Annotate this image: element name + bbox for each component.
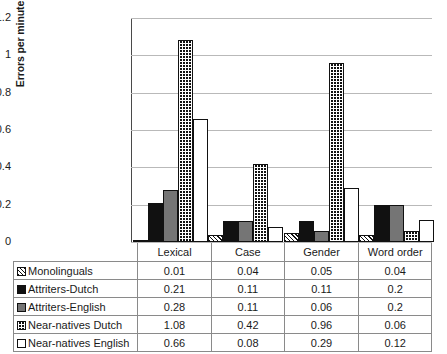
table-value-cell: 0.66 (137, 334, 211, 352)
table-value-cell: 0.06 (284, 298, 359, 316)
legend-label: Monolinguals (28, 265, 93, 277)
data-table: LexicalCaseGenderWord orderMonolinguals0… (13, 243, 432, 352)
table-row: Near-natives Dutch1.080.420.960.06 (14, 316, 432, 334)
y-axis-tick-label: 1 (5, 49, 11, 60)
checkerboard-icon (17, 321, 26, 330)
bar-cluster (208, 18, 283, 242)
legend-cell: Near-natives English (14, 334, 138, 352)
legend-cell: Monolinguals (14, 262, 138, 280)
bar-chart-figure: Errors per minute 1.210.80.60.40.20 Lexi… (0, 0, 447, 354)
x-axis-category-label: Lexical (137, 243, 211, 262)
table-value-cell: 0.12 (359, 334, 432, 352)
bar-monolinguals-gender[interactable] (284, 233, 299, 242)
legend-label: Near-natives English (28, 337, 130, 349)
bar-cluster (133, 18, 208, 242)
bar-near-natives-dutch-gender[interactable] (329, 63, 344, 242)
table-value-cell: 0.11 (212, 298, 285, 316)
bar-near-natives-english-word-order[interactable] (419, 220, 434, 242)
bar-near-natives-dutch-case[interactable] (253, 164, 268, 242)
y-axis-tick-label: 0.8 (0, 87, 11, 98)
y-axis-tick-label: 0.6 (0, 124, 11, 135)
bar-attriters-dutch-case[interactable] (223, 221, 238, 242)
bar-monolinguals-word-order[interactable] (359, 235, 374, 242)
table-row: Monolinguals0.010.040.050.04 (14, 262, 432, 280)
bar-attriters-english-word-order[interactable] (389, 205, 404, 242)
bar-near-natives-dutch-word-order[interactable] (404, 231, 419, 242)
bar-group-word-order (357, 18, 432, 242)
x-axis-category-label: Case (212, 243, 285, 262)
table-value-cell: 0.05 (284, 262, 359, 280)
table-value-cell: 0.96 (284, 316, 359, 334)
table-value-cell: 0.08 (212, 334, 285, 352)
table-value-cell: 0.04 (212, 262, 285, 280)
solid-black-icon (17, 285, 26, 294)
bar-attriters-dutch-lexical[interactable] (148, 203, 163, 242)
table-corner-cell (14, 243, 138, 262)
table-value-cell: 0.06 (359, 316, 432, 334)
bar-cluster (284, 18, 359, 242)
table-row: Near-natives English0.660.080.290.12 (14, 334, 432, 352)
legend-cell: Attriters-English (14, 298, 138, 316)
bar-attriters-dutch-word-order[interactable] (374, 205, 389, 242)
table-value-cell: 1.08 (137, 316, 211, 334)
bar-cluster (359, 18, 434, 242)
table-value-cell: 0.28 (137, 298, 211, 316)
table-value-cell: 0.2 (359, 298, 432, 316)
legend-label: Near-natives Dutch (28, 319, 122, 331)
legend-cell: Near-natives Dutch (14, 316, 138, 334)
white-icon (17, 339, 26, 348)
y-axis-tick-label: 0.2 (0, 199, 11, 210)
table-value-cell: 0.04 (359, 262, 432, 280)
table-body: LexicalCaseGenderWord orderMonolinguals0… (14, 243, 432, 352)
solid-gray-icon (17, 303, 26, 312)
table-value-cell: 0.42 (212, 316, 285, 334)
table-value-cell: 0.11 (284, 280, 359, 298)
x-axis-category-label: Word order (359, 243, 432, 262)
table-value-cell: 0.29 (284, 334, 359, 352)
bar-attriters-english-gender[interactable] (314, 231, 329, 242)
bar-attriters-english-case[interactable] (238, 221, 253, 242)
plot-area (131, 18, 432, 242)
y-axis-tick-label: 0.4 (0, 161, 11, 172)
table-row: Attriters-English0.280.110.060.2 (14, 298, 432, 316)
bar-group-case (206, 18, 281, 242)
legend-label: Attriters-Dutch (28, 283, 98, 295)
table-value-cell: 0.21 (137, 280, 211, 298)
table-row: Attriters-Dutch0.210.110.110.2 (14, 280, 432, 298)
legend-label: Attriters-English (28, 301, 106, 313)
bar-attriters-dutch-gender[interactable] (299, 221, 314, 242)
bar-group-gender (282, 18, 357, 242)
legend-cell: Attriters-Dutch (14, 280, 138, 298)
table-value-cell: 0.11 (212, 280, 285, 298)
bar-group-lexical (131, 18, 206, 242)
y-axis-tick-label: 0 (5, 236, 11, 247)
bar-attriters-english-lexical[interactable] (163, 190, 178, 242)
y-axis-tick-label: 1.2 (0, 12, 11, 23)
table-value-cell: 0.2 (359, 280, 432, 298)
bar-monolinguals-lexical[interactable] (133, 240, 148, 242)
x-axis-category-label: Gender (284, 243, 359, 262)
bar-monolinguals-case[interactable] (208, 235, 223, 242)
table-header-row: LexicalCaseGenderWord order (14, 243, 432, 262)
y-axis-title: Errors per minute (14, 0, 26, 119)
diagonal-hatch-icon (17, 267, 26, 276)
bar-near-natives-dutch-lexical[interactable] (178, 40, 193, 242)
table-value-cell: 0.01 (137, 262, 211, 280)
